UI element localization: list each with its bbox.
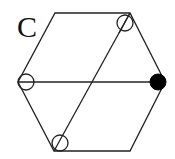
hexagon-diagram <box>0 0 175 159</box>
diagram-panel: C <box>0 0 175 159</box>
right-marker <box>150 74 166 90</box>
bottom-left-marker <box>52 135 68 151</box>
